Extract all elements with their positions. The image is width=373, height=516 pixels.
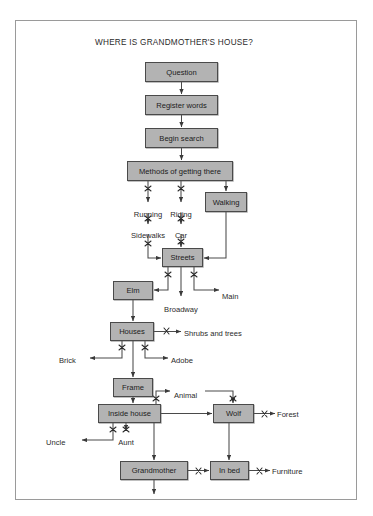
label-running: Running [134,210,162,219]
label-adobe: Adobe [171,356,193,365]
node-elm[interactable]: Elm [113,281,153,300]
diagram-page: WHERE IS GRANDMOTHER'S HOUSE? [0,0,373,516]
label-main: Main [222,292,238,301]
label-shrubs: Shrubs and trees [184,329,242,338]
label-broadway: Broadway [164,305,198,314]
node-streets[interactable]: Streets [162,248,203,267]
node-grandmother[interactable]: Grandmother [120,461,188,480]
node-register[interactable]: Register words [145,95,218,115]
label-furniture: Furniture [272,467,302,476]
label-sidewalks: Sidewalks [131,231,165,240]
node-inside-house[interactable]: Inside house [98,404,161,423]
node-wolf[interactable]: Wolf [213,404,254,423]
node-in-bed[interactable]: In bed [210,461,249,480]
label-car: Car [175,231,187,240]
label-uncle: Uncle [46,438,65,447]
node-begin[interactable]: Begin search [145,128,218,148]
node-walking[interactable]: Walking [205,192,247,212]
node-frame-node[interactable]: Frame [113,378,153,397]
node-houses[interactable]: Houses [110,322,154,341]
label-brick: Brick [59,356,76,365]
label-riding: Riding [170,210,192,219]
label-aunt: Aunt [118,438,134,447]
label-forest: Forest [277,410,299,419]
node-question[interactable]: Question [145,62,218,82]
label-animal: Animal [174,391,197,400]
node-methods[interactable]: Methods of getting there [127,161,233,181]
